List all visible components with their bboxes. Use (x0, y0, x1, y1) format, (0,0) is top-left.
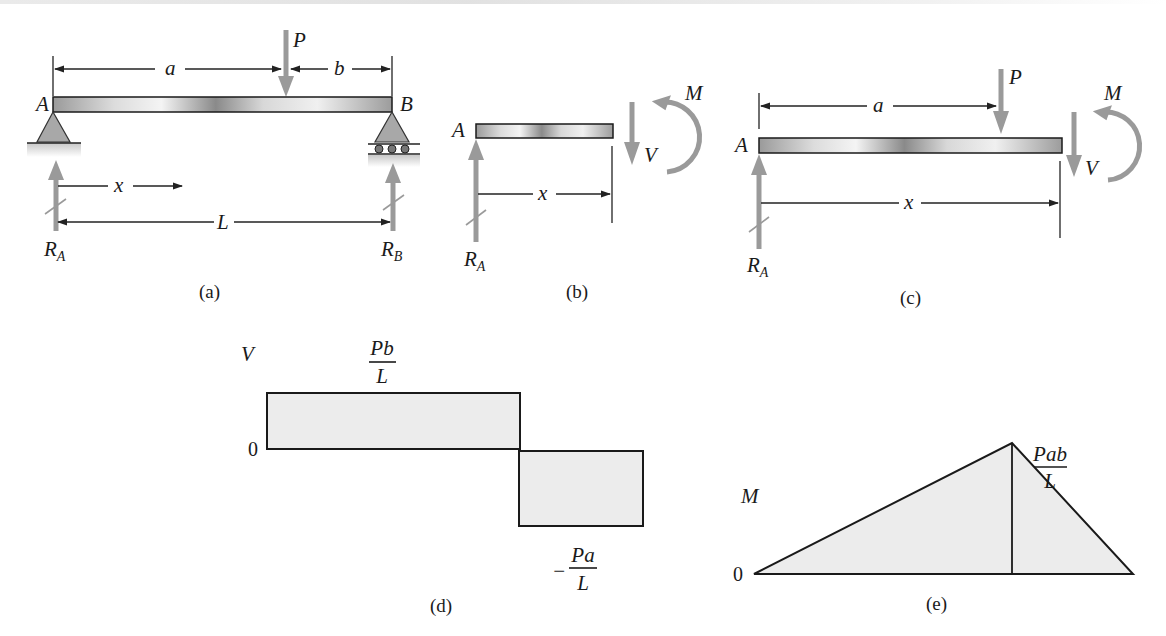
beam-segment-b (476, 124, 613, 138)
label-x: x (537, 181, 548, 205)
zero-label: 0 (248, 438, 258, 460)
pin-support-icon (37, 112, 70, 142)
caption-a: (a) (199, 281, 220, 303)
shear-v-arrow-icon (1066, 155, 1082, 177)
ground-hatch-b (368, 155, 420, 167)
panel-e-moment-diagram: M 0 Pab L (e) (733, 442, 1133, 615)
value-pab-numerator: Pab (1032, 442, 1067, 466)
label-rb: RB (380, 237, 403, 264)
caption-e: (e) (926, 593, 947, 615)
moment-m-arrow-icon (650, 90, 671, 111)
label-m: M (1103, 81, 1123, 105)
label-a: a (873, 93, 884, 117)
panel-b: A RA x V M (b) (450, 81, 704, 303)
ground-hatch-a (27, 143, 81, 157)
label-p: P (1008, 65, 1022, 89)
moment-m-arc (1103, 112, 1140, 180)
panel-c: a P A RA x V M (c) (733, 65, 1140, 309)
label-ra: RA (746, 253, 769, 280)
moment-m-arc (662, 102, 700, 172)
label-v: V (644, 143, 659, 167)
load-p-arrow-icon (278, 76, 294, 97)
label-v: V (1085, 156, 1100, 180)
label-p: P (292, 28, 306, 52)
label-x: x (113, 173, 124, 197)
value-pa-numerator: Pa (570, 543, 594, 567)
panel-a: a b P A B RA RB (27, 28, 420, 303)
reaction-ra-arrow-icon (751, 154, 767, 175)
label-l: L (216, 210, 229, 234)
beam-segment-c (759, 138, 1062, 153)
label-ra: RA (43, 237, 66, 264)
label-m: M (684, 81, 704, 105)
reaction-ra-arrow-icon (468, 139, 484, 160)
value-pa-sign: − (552, 559, 566, 583)
value-pab-denominator: L (1043, 469, 1056, 493)
reaction-ra-arrow-icon (48, 160, 64, 180)
label-ra: RA (463, 247, 486, 274)
axis-label-v: V (241, 342, 256, 366)
load-p-arrow-icon (993, 111, 1009, 134)
label-a-point: A (733, 133, 748, 157)
value-pa-denominator: L (576, 571, 589, 595)
caption-d: (d) (430, 595, 452, 617)
beam-ab (53, 97, 392, 112)
caption-b: (b) (566, 281, 588, 303)
label-a: a (165, 56, 176, 80)
shear-positive-region (267, 393, 520, 449)
zero-label: 0 (733, 563, 743, 585)
moment-triangle-region (754, 443, 1133, 574)
roller-wheel-icon (375, 145, 383, 153)
value-pb-denominator: L (375, 364, 388, 388)
label-x: x (903, 190, 914, 214)
label-b-point: B (400, 92, 413, 116)
beam-diagram-figure: a b P A B RA RB (0, 0, 1166, 636)
roller-support-icon (375, 112, 409, 142)
roller-wheel-icon (388, 145, 396, 153)
value-pb-numerator: Pb (369, 336, 393, 360)
shear-negative-region (519, 451, 643, 526)
label-a-point: A (450, 118, 465, 142)
panel-d-shear-diagram: V Pb L 0 − Pa L (d) (241, 336, 643, 617)
label-b: b (334, 56, 345, 80)
caption-c: (c) (900, 287, 921, 309)
axis-label-m: M (740, 484, 760, 508)
label-a-point: A (34, 92, 49, 116)
roller-wheel-icon (401, 145, 409, 153)
shear-v-arrow-icon (624, 142, 640, 165)
